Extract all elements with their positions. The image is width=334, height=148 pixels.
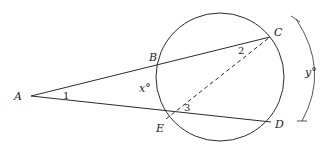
arc-label-x: x° [139, 82, 151, 95]
point-label-e: E [155, 122, 164, 135]
point-label-c: C [274, 26, 283, 39]
arc-label-y: y° [304, 66, 317, 79]
angle-label-1: 1 [63, 90, 69, 101]
point-label-d: D [274, 118, 284, 131]
point-label-b: B [148, 51, 157, 64]
geometry-diagram: A B C E D 1 2 3 x° y° [0, 0, 334, 148]
chord-ec-dashed [166, 37, 270, 119]
arc-tick-top [291, 16, 300, 22]
angle-label-3: 3 [184, 102, 190, 113]
angle-label-2: 2 [238, 45, 244, 56]
diagram-canvas: A B C E D 1 2 3 x° y° [0, 0, 334, 148]
point-label-a: A [13, 90, 22, 103]
